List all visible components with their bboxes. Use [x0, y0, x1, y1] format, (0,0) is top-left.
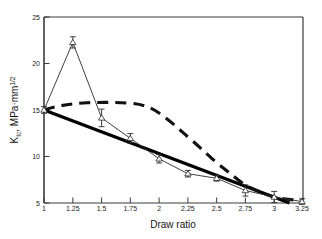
chart-figure: 1 1.25 1.5 1.75 2 2.25 2.5 2.75 3 3.25 5…	[0, 0, 322, 239]
x-tick-label-6: 2.5	[212, 205, 222, 212]
x-tick-label-9: 3.25	[295, 205, 309, 212]
x-tick-label-1: 1.25	[66, 205, 80, 212]
chart-svg: 1 1.25 1.5 1.75 2 2.25 2.5 2.75 3 3.25 5…	[0, 0, 322, 239]
x-tick-label-8: 3	[272, 205, 276, 212]
y-tick-label-4: 25	[32, 14, 40, 21]
x-tick-label-0: 1	[42, 205, 46, 212]
x-tick-label-7: 2.75	[239, 205, 253, 212]
y-tick-label-0: 5	[36, 200, 40, 207]
x-tick-label-4: 2	[157, 205, 161, 212]
y-tick-label-3: 20	[32, 60, 40, 67]
x-tick-label-2: 1.5	[97, 205, 107, 212]
x-tick-label-3: 1.75	[123, 205, 137, 212]
y-axis-title-superscript: 1/2	[9, 76, 16, 85]
x-axis-title: Draw ratio	[150, 219, 196, 230]
x-tick-label-5: 2.25	[181, 205, 195, 212]
y-axis-title-unit: , MPa·mm	[9, 86, 20, 132]
y-tick-label-1: 10	[32, 153, 40, 160]
y-tick-label-2: 15	[32, 107, 40, 114]
